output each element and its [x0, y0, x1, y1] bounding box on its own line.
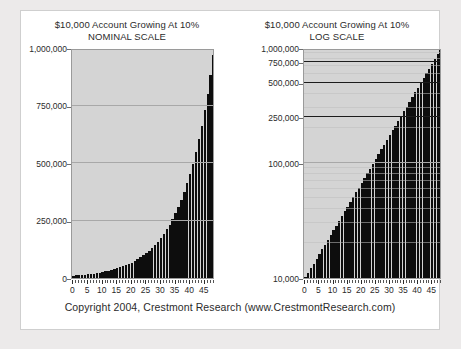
x-tick-label: 30	[152, 285, 168, 295]
x-tick-mark	[392, 280, 393, 283]
x-tick-mark	[166, 280, 167, 283]
x-tick-mark	[137, 280, 138, 283]
x-tick-mark	[75, 280, 76, 283]
x-tick-mark	[372, 280, 373, 283]
x-tick-mark	[169, 280, 170, 283]
x-tick-mark	[128, 280, 129, 283]
x-tick-mark	[143, 280, 144, 283]
x-tick-mark	[369, 280, 370, 283]
gridline	[72, 220, 213, 221]
x-tick-mark	[347, 280, 348, 284]
x-tick-mark	[180, 280, 181, 283]
x-tick-mark	[324, 280, 325, 283]
y-tick-label: 500,000	[36, 160, 67, 169]
gridline	[72, 162, 213, 163]
gridline	[304, 61, 440, 62]
x-tick-label: 10	[94, 285, 110, 295]
x-tick-mark	[72, 280, 73, 284]
x-tick-mark	[213, 280, 214, 283]
x-tick-mark	[414, 280, 415, 283]
chart-log-bars	[304, 50, 440, 278]
x-tick-mark	[119, 280, 120, 283]
x-tick-mark	[116, 280, 117, 284]
minor-gridline	[304, 73, 440, 74]
x-tick-mark	[96, 280, 97, 283]
x-tick-mark	[380, 280, 381, 283]
x-tick-mark	[426, 280, 427, 283]
chart-nominal-bars	[72, 50, 213, 278]
x-tick-mark	[411, 280, 412, 283]
x-tick-mark	[304, 280, 305, 284]
x-tick-mark	[172, 280, 173, 283]
x-tick-mark	[386, 280, 387, 283]
minor-gridline	[304, 58, 440, 59]
x-tick-mark	[333, 280, 334, 284]
x-tick-mark	[110, 280, 111, 283]
x-tick-mark	[440, 280, 441, 283]
y-tick-label: 100,000	[268, 160, 299, 169]
x-tick-mark	[395, 280, 396, 283]
gridline	[72, 105, 213, 106]
x-tick-mark	[113, 280, 114, 283]
minor-gridline	[304, 222, 440, 223]
minor-gridline	[304, 107, 440, 108]
x-tick-mark	[338, 280, 339, 283]
x-tick-mark	[84, 280, 85, 283]
x-tick-mark	[355, 280, 356, 283]
x-tick-mark	[434, 280, 435, 283]
x-tick-mark	[400, 280, 401, 283]
x-tick-mark	[192, 280, 193, 283]
y-tick-label: 1,000,000	[261, 45, 299, 54]
x-tick-label: 25	[137, 285, 153, 295]
x-tick-mark	[198, 280, 199, 283]
minor-gridline	[304, 197, 440, 198]
x-tick-mark	[201, 280, 202, 283]
x-tick-mark	[131, 280, 132, 284]
minor-gridline	[304, 188, 440, 189]
x-tick-mark	[78, 280, 79, 283]
gridline	[304, 82, 440, 83]
x-tick-label: 20	[123, 285, 139, 295]
x-tick-mark	[310, 280, 311, 283]
x-tick-mark	[397, 280, 398, 283]
x-tick-mark	[189, 280, 190, 284]
x-tick-mark	[361, 280, 362, 284]
figure-panel: $10,000 Account Growing At 10% NOMINAL S…	[20, 10, 440, 330]
x-tick-mark	[102, 280, 103, 284]
y-tick-mark	[67, 279, 71, 280]
x-tick-mark	[420, 280, 421, 283]
y-tick-label: 500,000	[268, 79, 299, 88]
x-tick-mark	[406, 280, 407, 283]
gridline	[304, 116, 440, 117]
x-tick-mark	[389, 280, 390, 284]
screenshot-root: $10,000 Account Growing At 10% NOMINAL S…	[0, 0, 461, 349]
x-tick-mark	[378, 280, 379, 283]
x-tick-label: 40	[181, 285, 197, 295]
chart-nominal: $10,000 Account Growing At 10% NOMINAL S…	[21, 11, 233, 296]
x-tick-mark	[175, 280, 176, 284]
x-tick-mark	[403, 280, 404, 284]
x-tick-label: 45	[423, 285, 439, 295]
x-tick-mark	[207, 280, 208, 283]
copyright-footer: Copyright 2004, Crestmont Research (www.…	[21, 301, 439, 313]
x-tick-mark	[383, 280, 384, 283]
minor-gridline	[304, 52, 440, 53]
minor-gridline	[304, 173, 440, 174]
x-tick-mark	[93, 280, 94, 283]
x-tick-mark	[151, 280, 152, 283]
x-tick-mark	[160, 280, 161, 284]
bar	[439, 50, 441, 278]
x-tick-mark	[81, 280, 82, 283]
x-tick-mark	[87, 280, 88, 284]
x-tick-mark	[122, 280, 123, 283]
x-tick-mark	[107, 280, 108, 283]
bar	[212, 55, 214, 278]
x-tick-mark	[428, 280, 429, 283]
x-tick-mark	[366, 280, 367, 283]
x-tick-mark	[417, 280, 418, 284]
x-tick-mark	[352, 280, 353, 283]
x-tick-mark	[358, 280, 359, 283]
x-tick-mark	[148, 280, 149, 283]
x-tick-mark	[321, 280, 322, 283]
y-tick-label: 750,000	[268, 59, 299, 68]
